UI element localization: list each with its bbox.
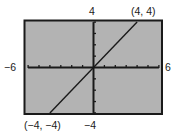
graphing-calculator-plot — [0, 0, 175, 137]
point-label-neg4-neg4: (−4, −4) — [24, 120, 61, 131]
x-min-label: −6 — [4, 62, 16, 73]
x-max-label: 6 — [165, 62, 171, 73]
point-label-4-4: (4, 4) — [131, 6, 156, 17]
y-min-label: −4 — [84, 120, 96, 131]
y-max-label: 4 — [89, 6, 95, 17]
